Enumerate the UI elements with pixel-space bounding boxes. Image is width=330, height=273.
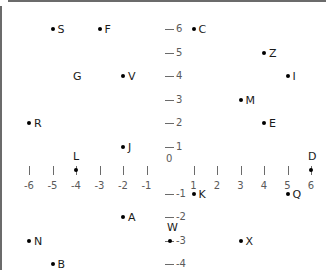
point-label-n: N <box>34 235 42 246</box>
data-point-b[interactable] <box>51 262 55 266</box>
point-label-j: J <box>128 141 131 152</box>
y-tick-mark <box>165 264 174 265</box>
data-point-n[interactable] <box>27 239 31 243</box>
x-tick-mark <box>29 166 30 175</box>
data-point-d[interactable] <box>309 168 313 172</box>
data-point-f[interactable] <box>98 27 102 31</box>
y-tick-mark <box>165 100 174 101</box>
x-tick-mark <box>123 166 124 175</box>
x-tick-label: 5 <box>284 181 290 191</box>
data-point-l[interactable] <box>74 168 78 172</box>
x-tick-mark <box>53 166 54 175</box>
y-tick-label: 1 <box>176 142 182 152</box>
data-point-c[interactable] <box>192 27 196 31</box>
point-label-v: V <box>128 71 136 82</box>
point-label-c: C <box>199 24 207 35</box>
y-tick-mark <box>165 194 174 195</box>
data-point-i[interactable] <box>286 74 290 78</box>
x-tick-mark <box>100 166 101 175</box>
data-point-k[interactable] <box>192 192 196 196</box>
y-axis-line <box>0 6 2 270</box>
point-label-a: A <box>128 212 136 223</box>
x-tick-label: 3 <box>237 181 243 191</box>
point-label-e: E <box>269 118 276 129</box>
y-tick-label: 5 <box>176 48 182 58</box>
y-tick-label: 2 <box>176 118 182 128</box>
point-label-m: M <box>246 94 256 105</box>
data-point-v[interactable] <box>121 74 125 78</box>
x-tick-label: -1 <box>142 181 152 191</box>
origin-label: 0 <box>166 154 172 164</box>
x-axis-line <box>8 0 326 2</box>
y-tick-label: 6 <box>176 24 182 34</box>
x-tick-label: -5 <box>48 181 58 191</box>
y-tick-mark <box>165 217 174 218</box>
data-point-w[interactable] <box>168 239 172 243</box>
x-tick-label: 6 <box>308 181 314 191</box>
point-label-x: X <box>246 235 254 246</box>
x-tick-mark <box>147 166 148 175</box>
y-tick-mark <box>165 147 174 148</box>
y-tick-label: -4 <box>176 259 186 269</box>
x-tick-mark <box>288 166 289 175</box>
point-label-g: G <box>73 71 82 82</box>
data-point-z[interactable] <box>262 51 266 55</box>
point-label-d: D <box>308 151 316 162</box>
y-tick-mark <box>165 76 174 77</box>
point-label-z: Z <box>269 47 277 58</box>
point-label-i: I <box>293 71 296 82</box>
y-tick-label: -1 <box>176 189 186 199</box>
y-tick-label: 3 <box>176 95 182 105</box>
y-tick-mark <box>165 123 174 124</box>
point-label-w: W <box>167 221 178 232</box>
coordinate-plane-scatter-plot: -6-5-4-3-2-10123456 654321-1-2-3-4 SFCZG… <box>0 0 330 273</box>
x-tick-label: -6 <box>24 181 34 191</box>
x-tick-label: 4 <box>261 181 267 191</box>
point-label-q: Q <box>293 188 302 199</box>
data-point-m[interactable] <box>239 98 243 102</box>
y-tick-mark <box>165 53 174 54</box>
x-tick-mark <box>241 166 242 175</box>
data-point-e[interactable] <box>262 121 266 125</box>
point-label-b: B <box>58 259 66 270</box>
x-tick-mark <box>194 166 195 175</box>
data-point-j[interactable] <box>121 145 125 149</box>
data-point-s[interactable] <box>51 27 55 31</box>
data-point-r[interactable] <box>27 121 31 125</box>
point-label-l: L <box>73 151 79 162</box>
point-label-r: R <box>34 118 42 129</box>
x-tick-label: 2 <box>214 181 220 191</box>
point-label-f: F <box>105 24 111 35</box>
y-tick-mark <box>165 29 174 30</box>
y-tick-label: 4 <box>176 71 182 81</box>
x-tick-mark <box>264 166 265 175</box>
x-tick-label: -2 <box>118 181 128 191</box>
data-point-x[interactable] <box>239 239 243 243</box>
x-tick-mark <box>217 166 218 175</box>
data-point-q[interactable] <box>286 192 290 196</box>
point-label-k: K <box>199 188 206 199</box>
x-tick-label: -4 <box>71 181 81 191</box>
data-point-a[interactable] <box>121 215 125 219</box>
x-tick-label: 1 <box>190 181 196 191</box>
y-tick-label: -3 <box>176 236 186 246</box>
point-label-s: S <box>58 24 65 35</box>
x-tick-label: -3 <box>95 181 105 191</box>
